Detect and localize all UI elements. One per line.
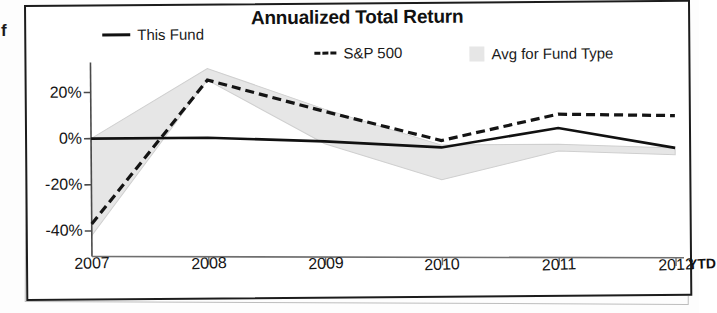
chart-container: Annualized Total Return This Fund S&P 50… (24, 0, 692, 301)
legend-label-this-fund: This Fund (137, 26, 204, 44)
legend-item-sp500[interactable]: S&P 500 (314, 44, 402, 62)
solid-line-swatch-icon (102, 33, 130, 36)
legend-label-sp500: S&P 500 (343, 44, 402, 61)
x-axis-tick-label: 2012 (658, 255, 694, 274)
y-axis-tick-label: 20% (50, 84, 82, 102)
y-axis-tick-label: -20% (45, 176, 82, 194)
x-axis-tick-label: 2009 (308, 254, 344, 273)
y-axis-line (90, 62, 92, 256)
legend-item-this-fund[interactable]: This Fund (102, 26, 204, 44)
plot-area: YTD 20%0%-20%-40%20072008200920102011201… (90, 58, 675, 243)
y-axis-tick-label: 0% (59, 130, 82, 148)
x-axis-tick-label: 2010 (424, 255, 460, 274)
avg-for-fund-type-band (91, 65, 676, 236)
page-edge-text-fragment: f (1, 22, 7, 39)
x-axis-tick-label: 2011 (542, 255, 577, 274)
y-axis-tick-label: -40% (45, 222, 82, 240)
x-axis-line (92, 252, 684, 263)
x-axis-tick-label: 2008 (191, 254, 227, 273)
dashed-line-swatch-icon (314, 52, 336, 55)
x-axis-tick-label: 2007 (74, 254, 110, 273)
chart-plot-svg (90, 58, 675, 243)
